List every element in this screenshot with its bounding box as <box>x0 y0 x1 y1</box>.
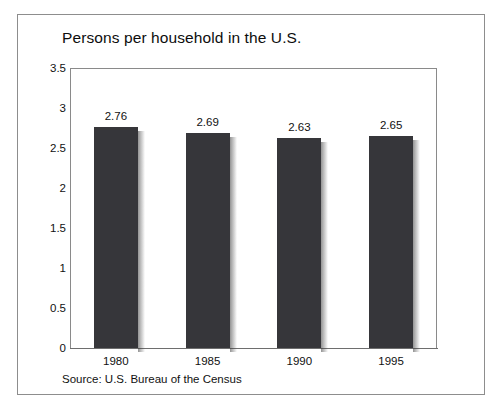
x-axis-tick-labels: 1980198519901995 <box>70 354 437 372</box>
y-tick-label: 2.5 <box>28 143 66 154</box>
x-tick-label: 1990 <box>287 354 313 368</box>
bar-1985: 2.69 <box>186 133 230 348</box>
bar-shadow <box>138 131 145 352</box>
y-tick-label: 1 <box>28 263 66 274</box>
bar-series: 2.762.692.632.65 <box>70 68 437 348</box>
bar-shadow <box>413 140 420 352</box>
x-tick-label: 1980 <box>103 354 129 368</box>
y-tick-label: 3 <box>28 103 66 114</box>
bar-rect <box>277 138 321 348</box>
x-axis-line <box>70 348 438 349</box>
bar-rect <box>186 133 230 348</box>
bar-1995: 2.65 <box>369 136 413 348</box>
bar-shadow <box>321 142 328 352</box>
y-tick-label: 2 <box>28 183 66 194</box>
y-axis-tick-labels: 00.511.522.533.5 <box>22 0 66 412</box>
bar-value-label: 2.63 <box>288 121 310 133</box>
x-tick-label: 1995 <box>378 354 404 368</box>
bar-value-label: 2.65 <box>380 119 402 131</box>
bar-rect <box>369 136 413 348</box>
bar-value-label: 2.76 <box>105 110 127 122</box>
bar-rect <box>94 127 138 348</box>
bar-1980: 2.76 <box>94 127 138 348</box>
bar-shadow <box>230 137 237 352</box>
bar-value-label: 2.69 <box>196 116 218 128</box>
chart-title: Persons per household in the U.S. <box>62 28 301 48</box>
chart-figure: Persons per household in the U.S. 00.511… <box>0 0 500 412</box>
y-tick-label: 0 <box>28 343 66 354</box>
y-tick-label: 1.5 <box>28 223 66 234</box>
y-tick-label: 3.5 <box>28 63 66 74</box>
bar-1990: 2.63 <box>277 138 321 348</box>
y-tick-label: 0.5 <box>28 303 66 314</box>
x-tick-label: 1985 <box>195 354 221 368</box>
source-note: Source: U.S. Bureau of the Census <box>62 372 242 386</box>
